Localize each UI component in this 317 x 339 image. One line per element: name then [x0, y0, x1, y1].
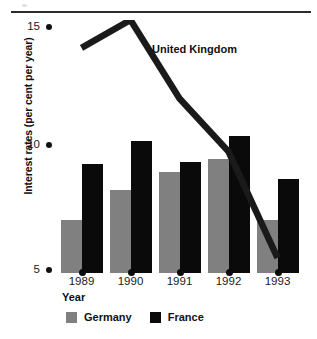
y-tick-dot-icon	[46, 267, 52, 273]
bar-france-1990	[131, 141, 152, 273]
legend-item-germany: Germany	[66, 312, 132, 323]
x-tick-label-1990: 1990	[106, 276, 156, 288]
uk-line-annotation: United Kingdom	[152, 43, 237, 55]
y-tick-5: 5	[24, 264, 52, 276]
legend-label-france: France	[168, 312, 204, 323]
bar-france-1992	[229, 136, 250, 273]
bar-germany-1993	[257, 220, 278, 273]
y-tick-15: 15	[24, 21, 52, 33]
y-tick-label: 15	[24, 21, 40, 33]
x-axis-title: Year	[62, 291, 85, 303]
page-speck-artifact	[22, 4, 27, 7]
legend-swatch-france-icon	[150, 312, 161, 323]
y-tick-label: 10	[24, 139, 40, 151]
bar-germany-1989	[61, 220, 82, 273]
y-tick-dot-icon	[46, 142, 52, 148]
bar-germany-1990	[110, 190, 131, 273]
x-tick-label-1992: 1992	[204, 276, 254, 288]
bar-germany-1992	[208, 159, 229, 273]
y-tick-dot-icon	[46, 24, 52, 30]
y-tick-10: 10	[24, 139, 52, 151]
chart-legend: Germany France	[66, 312, 204, 323]
legend-item-france: France	[150, 312, 204, 323]
bar-france-1989	[82, 164, 103, 273]
bar-group	[110, 20, 152, 273]
y-tick-label: 5	[24, 264, 40, 276]
y-axis-title: Interest rates (per cent per year)	[22, 26, 34, 206]
legend-label-germany: Germany	[84, 312, 132, 323]
bar-group	[208, 20, 250, 273]
plot-area	[57, 20, 302, 273]
x-tick-label-1991: 1991	[155, 276, 205, 288]
x-tick-label-1993: 1993	[253, 276, 303, 288]
x-tick-label-1989: 1989	[57, 276, 107, 288]
bar-france-1993	[278, 179, 299, 273]
legend-swatch-germany-icon	[66, 312, 77, 323]
bar-group	[61, 20, 103, 273]
bar-germany-1991	[159, 172, 180, 273]
top-divider-rule	[11, 11, 311, 13]
x-axis-tick-labels: 19891990199119921993	[57, 276, 302, 292]
bar-group	[257, 20, 299, 273]
chart-figure: Interest rates (per cent per year) 15 10…	[0, 0, 317, 339]
bar-group	[159, 20, 201, 273]
bar-france-1991	[180, 162, 201, 273]
